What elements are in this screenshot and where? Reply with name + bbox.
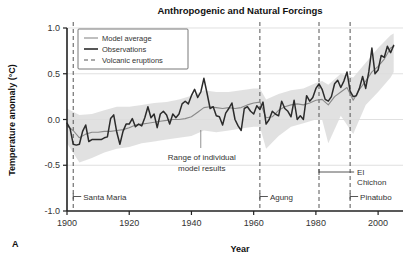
legend-label-volcanic-eruptions: Volcanic eruptions: [102, 56, 163, 65]
x-tick-label: 1900: [57, 218, 77, 228]
panel-label: A: [12, 239, 19, 249]
y-tick-label: 1.0: [47, 23, 60, 33]
figure-panel: Anthropogenic and Natural Forcings -1.0-…: [0, 0, 414, 258]
volcanic-label-text-el-chichon: Chichon: [357, 178, 386, 187]
y-tick-label: -1.0: [44, 206, 60, 216]
volcanic-label-text-agung: Agung: [270, 193, 293, 202]
volcanic-label-text-santa-maria: Santa Maria: [83, 193, 127, 202]
x-tick-label: 2000: [368, 218, 388, 228]
y-axis-title: Temperature anomaly (°C): [7, 64, 17, 175]
model-range-annotation-text: model results: [178, 164, 226, 173]
chart-legend[interactable]: Model average Observations Volcanic erup…: [78, 29, 188, 69]
volcanic-label-text-pinatubo: Pinatubo: [360, 193, 392, 202]
x-axis-title: Year: [230, 244, 250, 254]
x-tick-label: 1980: [306, 218, 326, 228]
y-tick-label: 0.5: [47, 69, 60, 79]
x-tick-label: 1940: [181, 218, 201, 228]
y-tick-label: 0.0: [47, 115, 60, 125]
y-tick-label: -0.5: [44, 160, 60, 170]
volcanic-label-text-el-chichon: El: [357, 168, 364, 177]
model-range-annotation-text: Range of individual: [168, 153, 236, 162]
legend-label-observations: Observations: [102, 45, 146, 54]
x-tick-label: 1960: [244, 218, 264, 228]
x-tick-label: 1920: [119, 218, 139, 228]
legend-label-model-average: Model average: [102, 34, 152, 43]
chart-title: Anthropogenic and Natural Forcings: [157, 5, 322, 16]
climate-forcings-chart: Anthropogenic and Natural Forcings -1.0-…: [0, 0, 414, 258]
